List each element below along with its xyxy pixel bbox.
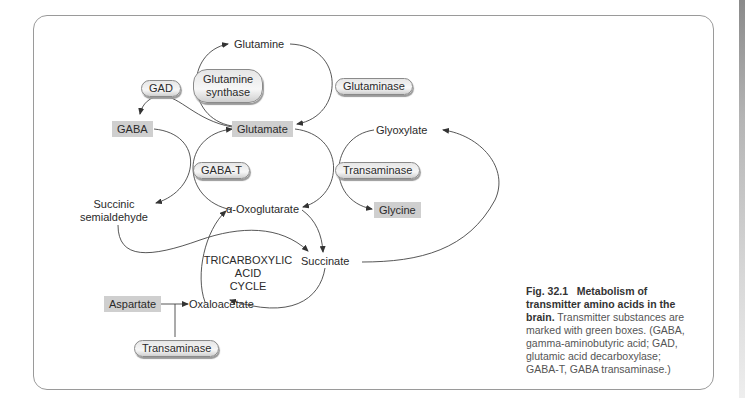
enzyme-glutaminase: Glutaminase	[335, 78, 413, 95]
node-glutamine: Glutamine	[234, 38, 284, 51]
figure-caption: Fig. 32.1 Metabolism of transmitter amin…	[526, 285, 696, 376]
enzyme-transaminase-aspartate: Transaminase	[134, 340, 219, 357]
node-glycine: Glycine	[374, 202, 421, 218]
node-alpha-oxoglutarate: α-Oxoglutarate	[226, 203, 299, 216]
node-aspartate: Aspartate	[104, 296, 161, 312]
enzyme-glutamine-synthase: Glutamine synthase	[193, 69, 263, 103]
node-glyoxylate: Glyoxylate	[376, 124, 427, 137]
caption-label: Fig. 32.1	[526, 285, 568, 297]
node-succinic-semialdehyde: Succinic semialdehyde	[80, 198, 148, 224]
enzyme-gad: GAD	[141, 80, 181, 97]
tca-cycle-label: TRICARBOXYLIC ACID CYCLE	[202, 254, 294, 293]
node-succinate: Succinate	[301, 255, 349, 268]
node-gaba: GABA	[112, 121, 153, 137]
node-oxaloacetate: Oxaloacetate	[189, 298, 254, 311]
enzyme-transaminase-glycine: Transaminase	[335, 162, 420, 179]
enzyme-gaba-t: GABA-T	[193, 162, 250, 179]
node-glutamate: Glutamate	[232, 121, 293, 137]
